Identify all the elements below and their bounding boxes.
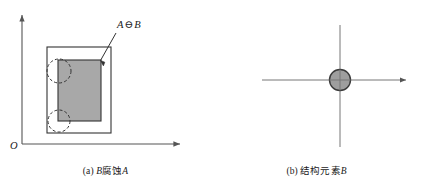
caption-b-index: (b) [286, 166, 297, 176]
caption-a-index: (a) [83, 166, 94, 176]
panel-erosion-result: A⊖B O (a) B腐蚀A [0, 0, 211, 184]
caption-panel-a: (a) B腐蚀A [0, 163, 211, 177]
erosion-operator-icon: ⊖ [123, 19, 134, 30]
caption-b-cjk: 结构元素 [300, 166, 340, 176]
erosion-operand-right: B [134, 19, 140, 30]
origin-label: O [10, 140, 18, 151]
caption-a-var-trail: A [122, 166, 128, 176]
figure-root: A⊖B O (a) B腐蚀A B [0, 0, 422, 184]
caption-b-var-trail: B [341, 166, 347, 176]
panel-a-canvas [0, 0, 211, 184]
panel-b-canvas [211, 0, 422, 184]
caption-a-cjk: 腐蚀 [102, 166, 122, 176]
panel-structuring-element: B (b) 结构元素B [211, 0, 422, 184]
caption-panel-b: (b) 结构元素B [211, 163, 422, 177]
erosion-annotation-label: A⊖B [117, 18, 141, 30]
